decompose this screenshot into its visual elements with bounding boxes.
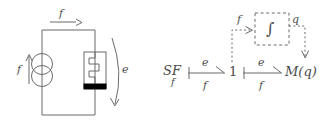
integrator-input-label: f bbox=[237, 14, 241, 25]
modulated-element-label: M(q) bbox=[285, 65, 317, 78]
circuit-schematic bbox=[26, 19, 119, 115]
bond-source-subscript: f bbox=[171, 77, 175, 87]
bond-1-to-mq-flow-label: f bbox=[259, 80, 263, 91]
bond-sf-to-1-flow-label: f bbox=[203, 80, 207, 91]
top-flow-arrow bbox=[50, 19, 82, 26]
source-flow-arrow bbox=[26, 55, 32, 85]
bond-1-to-mq-effort-label: e bbox=[258, 57, 265, 68]
circuit-loop-wire bbox=[42, 30, 95, 115]
one-junction-label: 1 bbox=[229, 65, 237, 78]
bond-sf-to-1-effort-label: e bbox=[202, 57, 209, 68]
figure-canvas bbox=[0, 0, 329, 121]
circuit-effort-label: e bbox=[122, 64, 129, 75]
circuit-top-flow-label: f bbox=[59, 8, 63, 19]
integrator-output-label: q bbox=[292, 14, 299, 25]
figure-root: f f e SF f e f 1 e f M(q) ∫ f q bbox=[0, 0, 329, 121]
signal-flow-to-integrator bbox=[232, 30, 250, 62]
effort-curved-arrow bbox=[111, 38, 120, 106]
circuit-source-flow-label: f bbox=[17, 64, 21, 75]
integrator-symbol: ∫ bbox=[266, 21, 274, 37]
